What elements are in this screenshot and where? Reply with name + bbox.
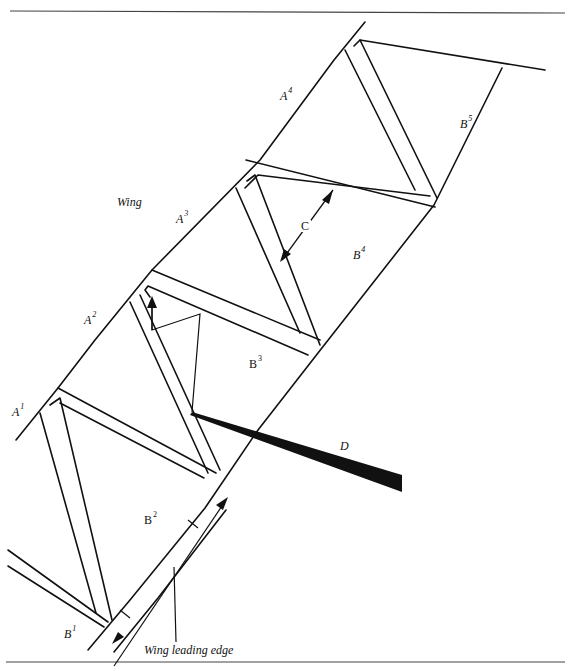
label-a4: A4 [280, 90, 292, 102]
label-b3: B3 [249, 358, 262, 370]
rib-b1-inner [8, 566, 104, 627]
leading-edge-callout [174, 567, 176, 642]
wing-outer-edge [16, 22, 365, 440]
rib-a3-right [247, 175, 320, 345]
label-b2: B2 [144, 514, 157, 526]
leading-edge-strip [114, 510, 226, 652]
label-b5: B5 [460, 118, 472, 130]
label-b4: B4 [353, 249, 365, 261]
label-a2: A2 [84, 314, 96, 326]
thickness-arrow [120, 610, 130, 618]
rib-a4-top [360, 40, 545, 70]
rib-a1-top [58, 388, 216, 473]
rib-a3-inner [245, 175, 430, 196]
label-a1: A1 [12, 406, 24, 418]
leading-edge-arrow [114, 500, 226, 666]
label-c: C [299, 220, 311, 232]
top-rule [10, 11, 565, 13]
label-a3: A3 [176, 213, 188, 225]
label-d: D [340, 440, 349, 452]
label-wing-leading-edge: Wing leading edge [144, 644, 233, 656]
arrowhead [216, 497, 228, 510]
rib-b1 [8, 550, 108, 622]
rib-a4-left [345, 50, 415, 190]
strut-d [190, 412, 402, 492]
wing-leading-edge-line [88, 68, 502, 650]
rib-a1-top-inner [60, 403, 204, 478]
arrowhead [147, 296, 157, 308]
label-wing: Wing [117, 196, 142, 208]
rib-a4-right [354, 40, 437, 198]
internal-brace [152, 303, 200, 412]
rib-a3-top [246, 160, 435, 207]
label-b1: B1 [64, 628, 76, 640]
